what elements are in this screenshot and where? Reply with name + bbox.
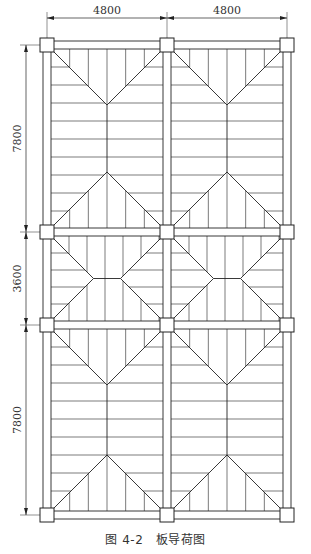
arrow-icon	[24, 225, 28, 232]
column	[40, 38, 54, 52]
slab-load-distribution-diagram: 48004800780036007800	[0, 0, 311, 554]
column	[160, 318, 174, 332]
arrow-icon	[167, 16, 174, 20]
yield-line	[171, 329, 227, 385]
yield-line	[107, 172, 163, 228]
arrow-icon	[280, 16, 287, 20]
yield-line	[241, 279, 284, 322]
yield-line	[241, 236, 284, 279]
column	[40, 225, 54, 239]
yield-line	[51, 455, 107, 511]
arrow-icon	[24, 508, 28, 515]
column	[280, 225, 294, 239]
yield-line	[51, 172, 107, 228]
yield-line	[121, 279, 164, 322]
yield-line	[107, 329, 163, 385]
yield-line	[107, 49, 163, 105]
yield-line	[171, 49, 227, 105]
dimension-label: 4800	[213, 4, 241, 17]
column	[280, 318, 294, 332]
arrow-icon	[24, 45, 28, 52]
column	[280, 38, 294, 52]
yield-line	[227, 455, 283, 511]
dimension-label: 7800	[11, 125, 24, 153]
dimension-label: 4800	[93, 4, 121, 17]
yield-line	[107, 455, 163, 511]
arrow-icon	[24, 325, 28, 332]
caption-number: 图 4-2	[105, 533, 143, 547]
dimension-label: 3600	[11, 265, 24, 293]
yield-line	[227, 49, 283, 105]
caption-title: 板导荷图	[156, 533, 206, 547]
yield-line	[171, 172, 227, 228]
column	[280, 508, 294, 522]
yield-line	[51, 49, 107, 105]
arrow-icon	[24, 318, 28, 325]
column	[40, 318, 54, 332]
column	[160, 225, 174, 239]
column	[40, 508, 54, 522]
yield-line	[121, 236, 164, 279]
arrow-icon	[24, 232, 28, 239]
arrow-icon	[47, 16, 54, 20]
yield-line	[51, 329, 107, 385]
yield-line	[227, 172, 283, 228]
arrow-icon	[160, 16, 167, 20]
figure-caption: 图 4-2 板导荷图	[0, 530, 311, 547]
column	[160, 38, 174, 52]
yield-line	[171, 455, 227, 511]
yield-line	[227, 329, 283, 385]
column	[160, 508, 174, 522]
dimension-label: 7800	[11, 406, 24, 434]
